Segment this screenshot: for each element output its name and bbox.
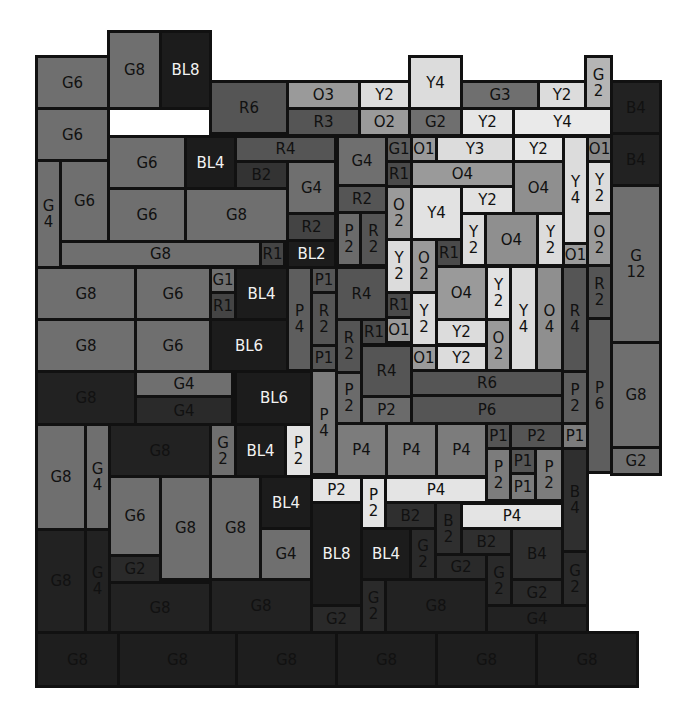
block-y2: Y 2 (536, 212, 565, 267)
block-g8: G8 (35, 318, 137, 373)
block-label: O 4 (544, 303, 556, 335)
block-label: G8 (276, 652, 297, 668)
block-label: G8 (625, 387, 646, 403)
block-y3: Y3 (435, 135, 515, 163)
block-g6: G6 (35, 55, 110, 110)
block-label: Y2 (529, 141, 548, 157)
block-label: G2 (425, 114, 446, 130)
block-g2: G 2 (209, 423, 237, 478)
block-g8: G8 (108, 581, 212, 634)
block-label: P4 (452, 442, 471, 458)
block-label: G6 (136, 207, 157, 223)
block-label: R 2 (319, 303, 329, 335)
block-label: P2 (377, 402, 396, 418)
block-label: R2 (352, 191, 372, 207)
block-p6: P6 (410, 394, 564, 425)
block-label: P 4 (319, 407, 329, 439)
block-label: O4 (451, 285, 472, 301)
block-bl8: BL8 (159, 30, 212, 110)
block-label: G4 (173, 376, 194, 392)
block-y2: Y 2 (385, 238, 413, 294)
block-label: P1 (566, 428, 585, 444)
block-r1: R1 (385, 160, 413, 188)
block-p2: P 2 (284, 423, 313, 478)
block-g8: G8 (117, 631, 238, 688)
block-g8: G8 (35, 528, 87, 634)
block-label: R1 (263, 246, 283, 262)
block-p2: P2 (310, 476, 363, 504)
block-label: Y 2 (419, 303, 429, 335)
block-label: O4 (501, 232, 522, 248)
block-b4: B4 (610, 132, 662, 187)
block-label: G2 (526, 585, 547, 601)
block-label: R1 (439, 245, 459, 261)
block-label: O2 (374, 114, 395, 130)
block-b4: B4 (510, 527, 564, 581)
block-r3: R3 (286, 107, 361, 137)
block-label: G 4 (43, 198, 55, 230)
block-label: O 2 (594, 224, 606, 256)
block-mosaic-diagram: G6G8BL8R6G6G6BL4R4B2G 4G6G6G8G4G8R1R2BL2… (0, 0, 696, 714)
block-r2: R 2 (335, 318, 363, 374)
block-label: Y2 (478, 192, 497, 208)
block-label: Y4 (553, 114, 572, 130)
block-p1: P1 (310, 344, 338, 372)
block-label: B 2 (443, 513, 453, 545)
block-y2: Y 2 (586, 160, 613, 215)
block-g8: G8 (384, 578, 488, 634)
block-y2: Y 2 (485, 265, 512, 321)
block-y2: Y2 (537, 80, 587, 110)
block-g8: G8 (35, 266, 137, 321)
block-g8: G8 (184, 187, 289, 243)
block-o1: O1 (586, 135, 613, 163)
block-g4: G4 (259, 527, 313, 581)
block-label: R2 (302, 219, 322, 235)
block-label: R3 (314, 114, 334, 130)
block-label: R1 (364, 324, 384, 340)
block-label: G6 (162, 338, 183, 354)
block-b4: B4 (610, 80, 662, 135)
block-label: P1 (514, 479, 533, 495)
block-label: R6 (239, 100, 259, 116)
block-g8: G8 (235, 631, 338, 688)
block-label: G6 (74, 193, 95, 209)
block-p2: P 2 (485, 447, 512, 502)
block-label: G 2 (417, 538, 429, 570)
block-y4: Y4 (410, 185, 463, 241)
block-label: P4 (352, 442, 371, 458)
block-label: BL4 (246, 443, 274, 459)
block-p1: P1 (509, 447, 537, 475)
block-y2: Y2 (435, 318, 488, 346)
block-label: G 2 (368, 590, 380, 622)
block-label: G8 (167, 652, 188, 668)
block-g1: G1 (209, 266, 237, 294)
block-label: G 4 (92, 461, 104, 493)
block-label: Y2 (452, 350, 471, 366)
block-bl4: BL4 (184, 135, 237, 190)
block-bl2: BL2 (286, 239, 337, 269)
block-o4: O4 (435, 265, 488, 321)
block-g8: G8 (35, 631, 120, 688)
block-g8: G8 (35, 370, 137, 426)
block-y2: Y2 (435, 344, 488, 372)
block-label: P2 (327, 482, 346, 498)
block-g3: G3 (460, 80, 540, 110)
block-g4: G 4 (35, 159, 62, 269)
block-label: G6 (162, 286, 183, 302)
block-label: G6 (62, 75, 83, 91)
block-label: Y 2 (595, 172, 605, 204)
block-label: BL8 (171, 62, 199, 78)
block-y2: Y2 (460, 185, 515, 215)
block-label: O1 (413, 350, 434, 366)
block-label: BL8 (322, 546, 350, 562)
block-g2: G 2 (561, 550, 589, 607)
block-label: Y 2 (394, 250, 404, 282)
block-label: R 2 (368, 223, 378, 255)
block-o2: O 2 (485, 318, 512, 373)
block-r4: R4 (360, 344, 413, 398)
block-label: G8 (75, 286, 96, 302)
block-r2: R 2 (359, 211, 388, 267)
block-label: Y2 (478, 114, 497, 130)
block-label: R1 (389, 166, 409, 182)
block-label: B2 (477, 534, 497, 550)
